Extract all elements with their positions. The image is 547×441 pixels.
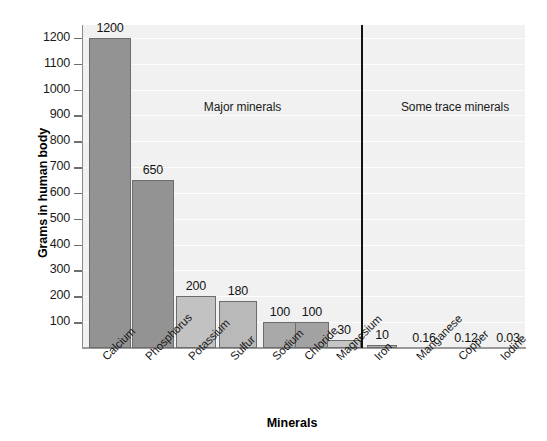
bar-value-label: 180 <box>208 284 268 298</box>
y-tick-mark <box>74 219 82 220</box>
y-tick-label: 700 <box>26 159 70 173</box>
y-tick-mark <box>74 38 82 39</box>
y-tick-label: 900 <box>26 107 70 121</box>
gridline <box>83 38 525 39</box>
y-tick-mark <box>74 141 82 142</box>
y-tick-label: 400 <box>26 237 70 251</box>
y-tick-mark <box>74 193 82 194</box>
bar-calcium <box>89 38 131 348</box>
y-tick-mark <box>74 115 82 116</box>
y-tick-mark <box>74 296 82 297</box>
y-tick-mark <box>74 90 82 91</box>
y-tick-label: 500 <box>26 211 70 225</box>
y-tick-label: 300 <box>26 262 70 276</box>
y-tick-mark <box>74 270 82 271</box>
y-tick-label: 600 <box>26 185 70 199</box>
gridline <box>83 141 525 142</box>
group-annotation-trace: Some trace minerals <box>385 100 525 114</box>
y-tick-mark <box>74 245 82 246</box>
y-tick-label: 1200 <box>26 30 70 44</box>
x-axis-title: Minerals <box>82 416 502 430</box>
y-tick-label: 100 <box>26 314 70 328</box>
y-tick-mark <box>74 167 82 168</box>
gridline <box>83 115 525 116</box>
mineral-bar-chart: Grams in human body 10020030040050060070… <box>0 0 547 441</box>
bar-value-label: 650 <box>123 163 183 177</box>
group-divider-line <box>361 25 363 348</box>
y-tick-label: 800 <box>26 133 70 147</box>
bar-value-label: 100 <box>282 305 342 319</box>
gridline <box>83 90 525 91</box>
y-tick-label: 1000 <box>26 82 70 96</box>
group-annotation-major: Major minerals <box>180 100 305 114</box>
bar-phosphorus <box>132 180 174 348</box>
y-tick-mark <box>74 64 82 65</box>
bar-value-label: 1200 <box>80 21 140 35</box>
y-tick-mark <box>74 322 82 323</box>
gridline <box>83 64 525 65</box>
y-tick-label: 200 <box>26 288 70 302</box>
y-tick-label: 1100 <box>26 56 70 70</box>
